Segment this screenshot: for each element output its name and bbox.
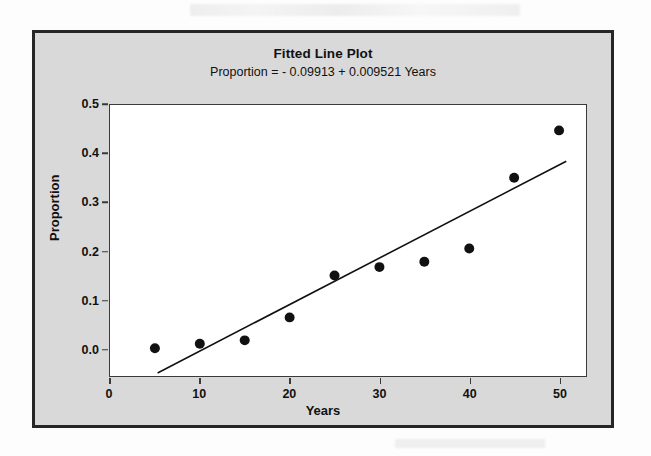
x-tick-label: 50: [540, 387, 580, 401]
x-tick-mark: [560, 378, 562, 384]
x-tick-label: 40: [450, 387, 490, 401]
data-point: [554, 125, 564, 135]
plot-svg: [110, 105, 586, 376]
regression-line: [158, 161, 567, 373]
x-tick-mark: [199, 378, 201, 384]
x-tick-mark: [380, 378, 382, 384]
data-point: [419, 257, 429, 267]
scan-bleedthrough-bottom: [395, 439, 545, 448]
chart-frame: Fitted Line Plot Proportion = - 0.09913 …: [32, 30, 614, 428]
data-point: [374, 262, 384, 272]
scan-bleedthrough-top: [190, 4, 520, 16]
data-point: [150, 343, 160, 353]
page-background: Fitted Line Plot Proportion = - 0.09913 …: [0, 0, 651, 456]
x-tick-label: 30: [360, 387, 400, 401]
x-tick-mark: [289, 378, 291, 384]
data-point: [285, 312, 295, 322]
chart-area: Fitted Line Plot Proportion = - 0.09913 …: [35, 33, 611, 425]
x-tick-label: 20: [269, 387, 309, 401]
x-tick-mark: [109, 378, 111, 384]
x-tick-mark: [470, 378, 472, 384]
data-point: [509, 173, 519, 183]
data-point: [240, 335, 250, 345]
data-point: [195, 339, 205, 349]
plot-panel: [109, 104, 587, 377]
data-point: [464, 244, 474, 254]
x-tick-label: 0: [89, 387, 129, 401]
x-tick-label: 10: [179, 387, 219, 401]
